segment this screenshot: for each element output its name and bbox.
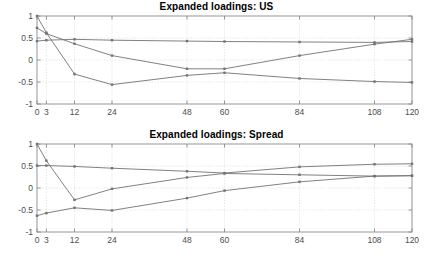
xtick-label: 120 xyxy=(405,107,419,117)
chart-panel-us: Expanded loadings: US 10.50-0.5-10312244… xyxy=(0,0,433,128)
series-marker xyxy=(223,72,225,74)
ytick-label: -0.5 xyxy=(18,77,33,87)
series-marker xyxy=(223,68,225,70)
series-marker xyxy=(186,176,188,178)
series-marker xyxy=(111,188,113,190)
ytick-label: 1 xyxy=(28,11,33,21)
series-marker xyxy=(373,163,375,165)
series-marker xyxy=(186,68,188,70)
xtick-label: 24 xyxy=(107,107,117,117)
xtick-label: 3 xyxy=(44,235,49,245)
series-marker xyxy=(73,38,75,40)
xtick-label: 48 xyxy=(182,235,192,245)
xtick-label: 12 xyxy=(70,107,80,117)
series-marker xyxy=(36,15,38,17)
xtick-label: 12 xyxy=(70,235,80,245)
ytick-label: 0 xyxy=(28,183,33,193)
series-marker xyxy=(111,167,113,169)
series-marker xyxy=(411,163,413,165)
series-marker xyxy=(73,207,75,209)
xtick-label: 3 xyxy=(44,107,49,117)
series-marker xyxy=(186,40,188,42)
series-marker xyxy=(298,174,300,176)
series-marker xyxy=(373,43,375,45)
series-marker xyxy=(36,27,38,29)
series-marker xyxy=(411,38,413,40)
series-marker xyxy=(223,40,225,42)
series-marker xyxy=(73,199,75,201)
xtick-label: 108 xyxy=(367,107,381,117)
xtick-label: 84 xyxy=(295,235,305,245)
series-marker xyxy=(298,54,300,56)
series-marker xyxy=(45,39,47,41)
series-marker xyxy=(411,174,413,176)
series-marker xyxy=(186,74,188,76)
ytick-label: 0 xyxy=(28,55,33,65)
series-marker xyxy=(73,43,75,45)
series-marker xyxy=(36,164,38,166)
ytick-label: 1 xyxy=(28,139,33,149)
series-marker xyxy=(111,39,113,41)
ytick-label: 0.5 xyxy=(21,33,33,43)
series-marker xyxy=(411,81,413,83)
ytick-label: -1 xyxy=(25,99,33,109)
series-marker xyxy=(36,215,38,217)
series-marker xyxy=(36,143,38,145)
series-marker xyxy=(45,164,47,166)
ytick-label: -1 xyxy=(25,227,33,237)
series-marker xyxy=(298,77,300,79)
series-marker xyxy=(373,80,375,82)
series-marker xyxy=(111,83,113,85)
series-marker xyxy=(111,54,113,56)
series-marker xyxy=(186,197,188,199)
series-marker xyxy=(223,189,225,191)
series-marker xyxy=(298,41,300,43)
ytick-label: 0.5 xyxy=(21,161,33,171)
xtick-label: 24 xyxy=(107,235,117,245)
series-marker xyxy=(45,32,47,34)
chart-panel-spread: Expanded loadings: Spread 10.50-0.5-1031… xyxy=(0,128,433,256)
series-marker xyxy=(186,170,188,172)
series-line xyxy=(37,164,412,173)
xtick-label: 120 xyxy=(405,235,419,245)
series-marker xyxy=(411,40,413,42)
series-marker xyxy=(298,181,300,183)
xtick-label: 0 xyxy=(35,235,40,245)
series-marker xyxy=(73,73,75,75)
series-marker xyxy=(45,212,47,214)
figure-container: Expanded loadings: US 10.50-0.5-10312244… xyxy=(0,0,433,257)
series-marker xyxy=(36,40,38,42)
xtick-label: 108 xyxy=(367,235,381,245)
plot-area-spread: 10.50-0.5-1031224486084108120 xyxy=(0,128,433,256)
xtick-label: 84 xyxy=(295,107,305,117)
plot-area-us: 10.50-0.5-1031224486084108120 xyxy=(0,0,433,128)
ytick-label: -0.5 xyxy=(18,205,33,215)
series-marker xyxy=(45,160,47,162)
xtick-label: 60 xyxy=(220,107,230,117)
xtick-label: 0 xyxy=(35,107,40,117)
series-line xyxy=(37,28,412,69)
series-marker xyxy=(298,166,300,168)
series-marker xyxy=(223,172,225,174)
series-marker xyxy=(111,209,113,211)
series-marker xyxy=(73,165,75,167)
xtick-label: 48 xyxy=(182,107,192,117)
xtick-label: 60 xyxy=(220,235,230,245)
series-marker xyxy=(373,175,375,177)
